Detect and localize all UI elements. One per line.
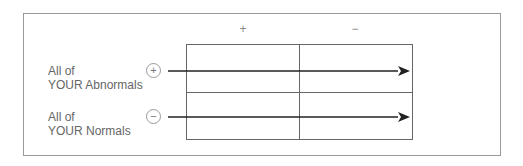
two-by-two-grid (0, 0, 523, 166)
arrow-normals-icon (168, 112, 410, 122)
grid-lines (187, 45, 413, 140)
arrow-abnormals-icon (168, 66, 410, 76)
